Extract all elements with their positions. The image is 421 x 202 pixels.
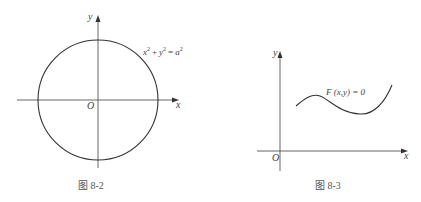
eq-y-exp: 2 (163, 46, 166, 52)
curve-equation: F (x,y) = 0 (325, 87, 366, 97)
y-axis-label: y (87, 11, 93, 22)
eq-plus: + (152, 47, 157, 57)
y-axis-label: y (272, 47, 278, 58)
eq-equals: = (168, 47, 173, 57)
x-axis-label: x (403, 150, 409, 161)
y-axis-arrow-icon (278, 51, 283, 58)
circle-equation: x2+y2=a2 (142, 46, 183, 57)
figure-caption: 图 8-3 (315, 180, 341, 191)
figure-8-2: x y O x2+y2=a2 图 8-2 (17, 11, 183, 191)
figure-8-3: x y O F (x,y) = 0 图 8-3 (257, 47, 409, 191)
eq-x-exp: 2 (147, 46, 150, 52)
eq-a-exp: 2 (180, 46, 183, 52)
y-axis-arrow-icon (96, 15, 101, 22)
x-axis-label: x (175, 99, 181, 110)
figure-caption: 图 8-2 (78, 180, 104, 191)
figure-canvas: x y O x2+y2=a2 图 8-2 x y O F (x,y) = 0 图… (0, 0, 421, 202)
origin-label: O (87, 100, 94, 111)
origin-label: O (272, 152, 279, 163)
